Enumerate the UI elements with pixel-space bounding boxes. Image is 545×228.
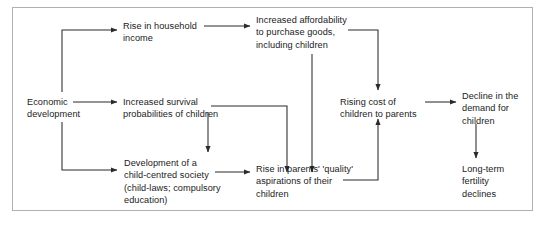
node-increased-survival-probabilities: Increased survival probabilities of chil…	[123, 96, 218, 121]
node-long-term-fertility-declines: Long-term fertility declines	[462, 163, 504, 200]
edge-increased-affordability-to-rising-cost	[348, 30, 378, 90]
node-increased-affordability: Increased affordability to purchase good…	[256, 14, 347, 51]
edge-economic-development-to-child-centred-society	[62, 122, 117, 170]
edge-economic-development-to-rise-household-income	[62, 30, 117, 92]
flow-diagram: Economic development Rise in household i…	[0, 0, 545, 228]
node-child-centred-society: Development of a child-centred society (…	[124, 157, 221, 206]
node-rising-cost-of-children: Rising cost of children to parents	[340, 96, 417, 121]
node-economic-development: Economic development	[27, 96, 80, 121]
node-decline-demand-children: Decline in the demand for children	[462, 90, 518, 127]
node-quality-aspirations: Rise in parents' 'quality' aspirations o…	[256, 163, 353, 200]
node-rise-household-income: Rise in household income	[123, 20, 197, 45]
